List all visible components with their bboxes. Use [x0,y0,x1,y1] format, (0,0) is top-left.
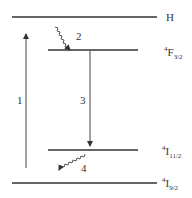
level-4F3/2: 4F3/2 [48,45,183,61]
transition-1: 1 [17,34,26,168]
energy-level-diagram: H 4F3/2 4I11/2 4I9/2 1 2 3 4 [0,0,192,198]
level-4I11/2: 4I11/2 [48,144,182,160]
transition-4-label: 4 [81,162,87,174]
level-H-label: H [166,11,174,23]
wavy-arrow-icon [55,27,70,50]
transition-2-label: 2 [76,30,82,42]
transition-3: 3 [80,51,90,146]
transition-3-label: 3 [80,94,86,106]
transition-4: 4 [59,154,87,174]
level-4I9/2: 4I9/2 [12,176,179,192]
transition-1-label: 1 [17,94,23,106]
level-4I11/2-label: 4I11/2 [162,144,182,160]
level-4I9/2-label: 4I9/2 [162,176,179,192]
level-H: H [12,11,174,23]
level-4F3/2-label: 4F3/2 [164,45,183,61]
transition-2: 2 [55,27,82,50]
